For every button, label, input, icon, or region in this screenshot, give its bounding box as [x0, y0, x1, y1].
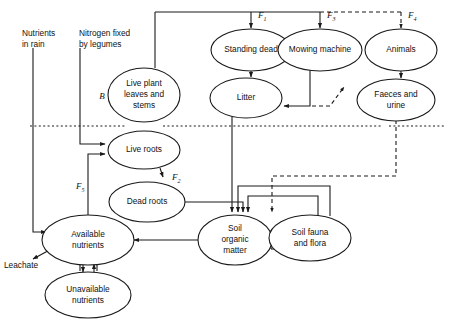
flux-label-b: B: [99, 91, 105, 101]
label-mowing-machine: Mowing machine: [289, 44, 352, 54]
label-standing-dead: Standing dead: [224, 44, 278, 54]
label-nitrogen-fixed-line1: Nitrogen fixed: [79, 28, 131, 38]
label-animals: Animals: [386, 44, 416, 54]
fauna-loop-outer: [238, 186, 330, 216]
label-soil-fauna-line2: and flora: [294, 238, 327, 248]
label-live-roots: Live roots: [126, 144, 162, 154]
label-soil-organic-matter-line2: organic: [221, 234, 248, 244]
label-nutrients-in-rain-line1: Nutrients: [22, 28, 55, 38]
fauna-loop-inner: [248, 196, 318, 216]
label-soil-organic-matter-line3: matter: [223, 245, 247, 255]
dead-roots-to-som: [184, 202, 243, 212]
label-soil-fauna-line1: Soil fauna: [292, 227, 329, 237]
flux-f5-line: [88, 154, 105, 216]
flux-label-f4: F4: [407, 10, 417, 22]
label-available-nutrients-line2: nutrients: [72, 240, 104, 250]
mowing-machine-to-litter: [284, 70, 310, 106]
label-soil-organic-matter-line1: Soil: [228, 223, 242, 233]
diagram-canvas: Standing dead Mowing machine Animals Lit…: [0, 0, 449, 329]
flux-label-f2: F2: [171, 172, 181, 184]
label-faeces-and-urine-line2: urine: [387, 100, 406, 110]
nutrients-in-rain-line: [33, 48, 46, 232]
label-nitrogen-fixed-line2: by legumes: [79, 39, 121, 49]
mowing-machine-export: [312, 87, 344, 106]
label-unavailable-nutrients-line1: Unavailable: [66, 284, 110, 294]
flux-label-f5: F5: [75, 181, 85, 193]
label-live-plant-line3: stems: [133, 100, 155, 110]
label-unavailable-nutrients-line2: nutrients: [72, 295, 104, 305]
label-live-plant-line2: leaves and: [124, 89, 165, 99]
label-available-nutrients-line1: Available: [71, 229, 105, 239]
faeces-to-soil-dashed: [272, 120, 396, 212]
label-dead-roots: Dead roots: [127, 196, 168, 206]
nutrient-cycle-diagram: Standing dead Mowing machine Animals Lit…: [0, 0, 449, 329]
label-leachate: Leachate: [4, 260, 39, 270]
label-litter: Litter: [237, 92, 256, 102]
label-nutrients-in-rain-line2: in rain: [22, 39, 45, 49]
live-roots-to-dead-roots: [160, 168, 163, 177]
label-faeces-and-urine-line1: Faeces and: [374, 89, 418, 99]
label-live-plant-line1: Live plant: [126, 78, 162, 88]
